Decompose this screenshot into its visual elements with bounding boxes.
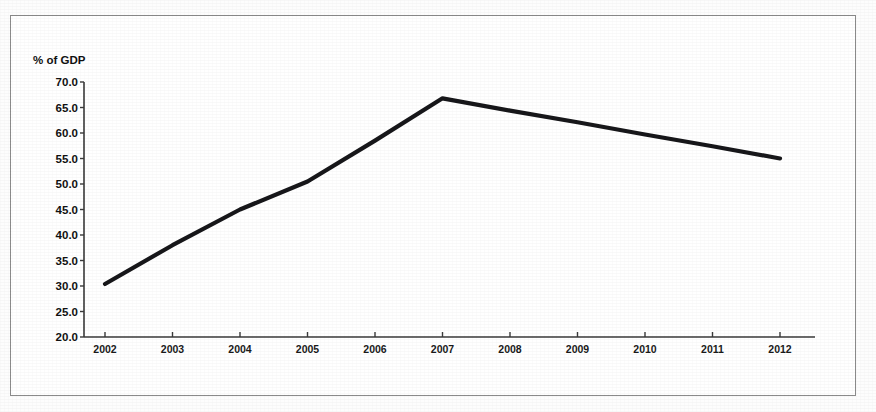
y-tick-label-30: 30.0 (56, 280, 78, 292)
y-tick-label-55: 55.0 (56, 153, 78, 165)
x-tick-label-2009: 2009 (566, 343, 590, 355)
data-series-line (105, 98, 780, 284)
y-tick-label-45: 45.0 (56, 204, 78, 216)
x-tick-label-2010: 2010 (633, 343, 657, 355)
y-tick-label-70: 70.0 (56, 76, 78, 88)
x-tick-label-2006: 2006 (363, 343, 387, 355)
y-tick-label-40: 40.0 (56, 229, 78, 241)
x-tick-label-2008: 2008 (498, 343, 522, 355)
x-tick-label-2002: 2002 (93, 343, 117, 355)
x-tick-label-2005: 2005 (296, 343, 320, 355)
line-chart: % of GDP 70.0 65.0 60.0 55.0 50.0 45.0 4… (0, 0, 876, 412)
y-axis-title: % of GDP (33, 54, 86, 66)
y-tick-label-60: 60.0 (56, 127, 78, 139)
x-tick-label-2011: 2011 (701, 343, 724, 355)
y-tick-label-65: 65.0 (56, 102, 78, 114)
x-tick-label-2007: 2007 (431, 343, 455, 355)
y-tick-label-20: 20.0 (56, 331, 78, 343)
x-tick-label-2012: 2012 (768, 343, 792, 355)
x-tick-label-2003: 2003 (161, 343, 185, 355)
x-tick-label-2004: 2004 (228, 343, 252, 355)
y-tick-label-25: 25.0 (56, 306, 78, 318)
chart-figure: % of GDP 70.0 65.0 60.0 55.0 50.0 45.0 4… (0, 0, 876, 412)
y-tick-label-35: 35.0 (56, 255, 78, 267)
y-tick-label-50: 50.0 (56, 178, 78, 190)
